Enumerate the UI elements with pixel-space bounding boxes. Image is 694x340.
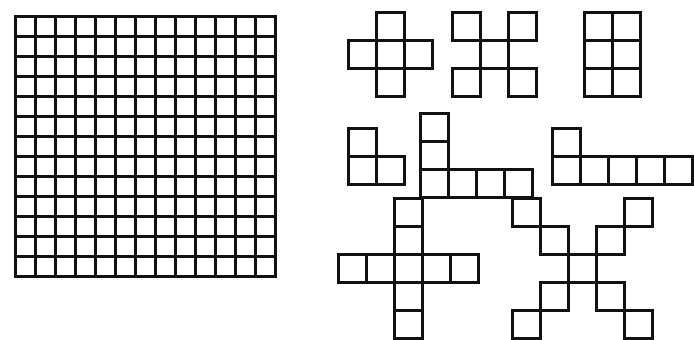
shape-cell[interactable] [595, 225, 626, 256]
grid-cell[interactable] [77, 98, 97, 118]
grid-cell[interactable] [117, 38, 137, 58]
shape-cell[interactable] [375, 39, 406, 70]
grid-cell[interactable] [77, 118, 97, 138]
grid-cell[interactable] [57, 198, 77, 218]
shape-cell[interactable] [551, 155, 582, 186]
shape-cell[interactable] [623, 309, 654, 340]
grid-cell[interactable] [197, 138, 217, 158]
grid-cell[interactable] [17, 58, 37, 78]
grid-cell[interactable] [157, 238, 177, 258]
grid-cell[interactable] [117, 158, 137, 178]
grid-cell[interactable] [257, 118, 277, 138]
grid-cell[interactable] [77, 78, 97, 98]
shape-cell[interactable] [393, 281, 424, 312]
grid-cell[interactable] [97, 158, 117, 178]
grid-cell[interactable] [117, 138, 137, 158]
grid-cell[interactable] [77, 138, 97, 158]
shape-cell[interactable] [539, 281, 570, 312]
shape-cell[interactable] [419, 112, 450, 143]
shape-cell[interactable] [507, 67, 538, 98]
grid-cell[interactable] [57, 178, 77, 198]
shape-cell[interactable] [635, 155, 666, 186]
grid-cell[interactable] [137, 118, 157, 138]
shape-cell[interactable] [611, 39, 642, 70]
grid-cell[interactable] [17, 258, 37, 278]
shape-rectangle-2x3[interactable] [584, 12, 640, 96]
shape-cell[interactable] [451, 67, 482, 98]
grid-cell[interactable] [157, 58, 177, 78]
grid-cell[interactable] [37, 178, 57, 198]
shape-cell[interactable] [611, 11, 642, 42]
grid-cell[interactable] [77, 238, 97, 258]
grid-cell[interactable] [17, 78, 37, 98]
grid-cell[interactable] [97, 38, 117, 58]
grid-cell[interactable] [157, 98, 177, 118]
grid-cell[interactable] [137, 38, 157, 58]
grid-cell[interactable] [197, 198, 217, 218]
grid-cell[interactable] [77, 58, 97, 78]
shape-cell[interactable] [539, 225, 570, 256]
shape-cell[interactable] [375, 11, 406, 42]
grid-cell[interactable] [257, 158, 277, 178]
grid-cell[interactable] [257, 238, 277, 258]
grid-cell[interactable] [137, 58, 157, 78]
grid-cell[interactable] [77, 198, 97, 218]
grid-cell[interactable] [97, 18, 117, 38]
grid-cell[interactable] [37, 218, 57, 238]
shape-plus-enneomino[interactable] [338, 198, 478, 338]
grid-cell[interactable] [217, 258, 237, 278]
grid-cell[interactable] [97, 198, 117, 218]
shape-cell[interactable] [623, 197, 654, 228]
grid-cell[interactable] [257, 18, 277, 38]
grid-cell[interactable] [177, 238, 197, 258]
grid-cell[interactable] [237, 138, 257, 158]
shape-l-hexomino-tall[interactable] [420, 113, 532, 197]
grid-cell[interactable] [57, 138, 77, 158]
shape-x-pentomino[interactable] [452, 12, 536, 96]
grid-cell[interactable] [157, 38, 177, 58]
grid-cell[interactable] [217, 138, 237, 158]
grid-cell[interactable] [217, 158, 237, 178]
grid-cell[interactable] [217, 38, 237, 58]
grid-cell[interactable] [37, 198, 57, 218]
grid-cell[interactable] [257, 78, 277, 98]
grid-cell[interactable] [177, 258, 197, 278]
grid-cell[interactable] [17, 118, 37, 138]
shape-cell[interactable] [503, 168, 534, 199]
grid-cell[interactable] [237, 178, 257, 198]
grid-cell[interactable] [177, 218, 197, 238]
grid-cell[interactable] [97, 78, 117, 98]
grid-cell[interactable] [37, 58, 57, 78]
grid-cell[interactable] [157, 138, 177, 158]
shape-cell[interactable] [375, 155, 406, 186]
grid-cell[interactable] [237, 18, 257, 38]
shape-cell[interactable] [583, 39, 614, 70]
grid-cell[interactable] [137, 138, 157, 158]
grid-cell[interactable] [37, 98, 57, 118]
grid-cell[interactable] [177, 138, 197, 158]
grid-cell[interactable] [137, 218, 157, 238]
grid-cell[interactable] [257, 178, 277, 198]
shape-cell[interactable] [419, 168, 450, 199]
shape-cell[interactable] [479, 39, 510, 70]
grid-cell[interactable] [197, 118, 217, 138]
grid-cell[interactable] [97, 118, 117, 138]
shape-l-hexomino-flat[interactable] [552, 128, 692, 184]
shape-cell[interactable] [393, 197, 424, 228]
grid-cell[interactable] [97, 138, 117, 158]
shape-cell[interactable] [511, 197, 542, 228]
grid-cell[interactable] [197, 158, 217, 178]
shape-cell[interactable] [375, 67, 406, 98]
grid-cell[interactable] [157, 18, 177, 38]
grid-cell[interactable] [257, 38, 277, 58]
grid-cell[interactable] [117, 98, 137, 118]
grid-cell[interactable] [97, 58, 117, 78]
grid-cell[interactable] [257, 258, 277, 278]
shape-cell[interactable] [393, 309, 424, 340]
grid-cell[interactable] [137, 198, 157, 218]
grid-cell[interactable] [117, 18, 137, 38]
grid-cell[interactable] [217, 218, 237, 238]
grid-cell[interactable] [237, 38, 257, 58]
grid-cell[interactable] [117, 178, 137, 198]
grid-cell[interactable] [17, 158, 37, 178]
